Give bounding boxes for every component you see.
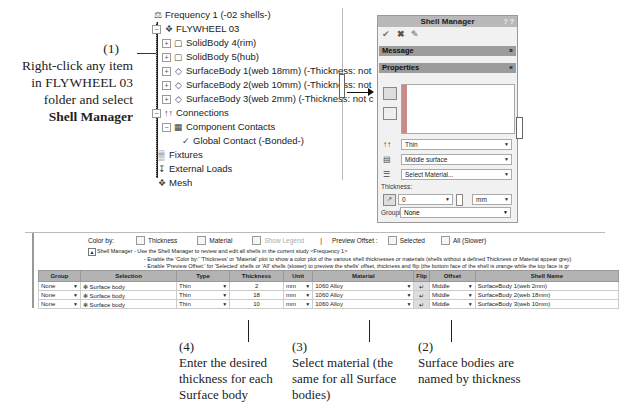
offset-cell[interactable]: Middle▼	[430, 282, 476, 291]
arrow-head-icon	[368, 88, 374, 96]
selection-listbox[interactable]	[401, 84, 515, 134]
message-section-header[interactable]: Message »	[379, 46, 516, 56]
col-header-offset[interactable]: Offset	[430, 271, 476, 282]
material-dropdown[interactable]: Select Material...▼	[401, 169, 512, 180]
dropdown-arrow-icon: ▼	[222, 283, 227, 289]
spin-icon[interactable]	[456, 194, 463, 206]
offset-dropdown[interactable]: Middle surface▼	[401, 154, 512, 165]
group-cell[interactable]: None▼	[39, 282, 81, 291]
surface-body-icon: ◇	[173, 78, 184, 92]
collapse-icon[interactable]: −	[162, 123, 171, 132]
expand-icon[interactable]: +	[162, 53, 171, 62]
tree-item-solidbody-hub[interactable]: + ▢ SolidBody 5(hub)	[162, 50, 259, 64]
panel-resize-handle[interactable]	[516, 117, 523, 139]
col-header-material[interactable]: Material	[313, 271, 414, 282]
type-cell[interactable]: Thin▼	[177, 291, 230, 300]
tree-item-connections[interactable]: − ↑↑ Connections	[152, 106, 229, 120]
unit-cell[interactable]: mm▼	[283, 291, 312, 300]
cell-value: 1060 Alloy	[315, 292, 343, 298]
thickness-cell[interactable]: 2	[230, 282, 284, 291]
col-header-selection[interactable]: Selection	[80, 271, 176, 282]
col-header-shell-name[interactable]: Shell Name	[475, 271, 618, 282]
dropdown-arrow-icon: ▼	[468, 301, 473, 307]
type-cell[interactable]: Thin▼	[177, 282, 230, 291]
col-header-flip[interactable]: Flip	[414, 271, 430, 282]
flip-cell[interactable]: ↵	[414, 300, 430, 309]
offset-cell[interactable]: Middle▼	[430, 300, 476, 309]
separator: |	[320, 237, 322, 244]
panel-title: Shell Manager	[420, 17, 474, 26]
collapse-chevron-icon[interactable]: »	[509, 46, 513, 56]
unit-cell[interactable]: mm▼	[283, 282, 312, 291]
tree-item-part[interactable]: − ❖ FLYWHEEL 03	[152, 22, 239, 36]
tree-resize-handle[interactable]	[339, 74, 345, 98]
section-label: Properties	[382, 63, 419, 72]
tree-item-label: Connections	[176, 106, 229, 120]
table-header-row: Group Selection Type Thickness Unit Mate…	[39, 271, 619, 282]
selection-cell[interactable]: ✻ Surface body	[80, 282, 176, 291]
solid-body-icon: ▢	[173, 36, 184, 50]
collapse-icon[interactable]: −	[152, 109, 161, 118]
surface-filter-icon[interactable]	[383, 107, 397, 120]
cell-value: Thin	[179, 292, 191, 298]
tree-item-external-loads[interactable]: ↧ External Loads	[156, 162, 232, 176]
dropdown-arrow-icon: ▼	[305, 292, 310, 298]
pushpin-icon[interactable]: ✎	[411, 29, 419, 39]
tree-item-mesh[interactable]: ❖ Mesh	[156, 176, 192, 190]
shell-type-dropdown[interactable]: Thin▼	[401, 139, 512, 150]
tree-item-global-contact[interactable]: ✓ Global Contact (-Bonded-)	[180, 134, 304, 148]
col-header-group[interactable]: Group	[39, 271, 81, 282]
selection-cell[interactable]: ✻ Surface body	[80, 291, 176, 300]
group-cell[interactable]: None▼	[39, 300, 81, 309]
flip-cell[interactable]: ↵	[414, 291, 430, 300]
dropdown-arrow-icon: ▼	[305, 301, 310, 307]
flip-cell[interactable]: ↵	[414, 282, 430, 291]
shell-name-cell[interactable]: SurfaceBody 2(web 18mm)	[475, 291, 618, 300]
tree-item-solidbody-rim[interactable]: + ▢ SolidBody 4(rim)	[162, 36, 256, 50]
expand-icon[interactable]: +	[162, 81, 171, 90]
offset-cell[interactable]: Middle▼	[430, 291, 476, 300]
selection-cell[interactable]: ✻ Surface body	[80, 300, 176, 309]
shell-name-cell[interactable]: SurfaceBody 3(web 10mm)	[475, 300, 618, 309]
material-checkbox[interactable]	[197, 236, 206, 245]
expand-icon[interactable]: +	[162, 95, 171, 104]
cell-value: SurfaceBody 1(web 2mm)	[478, 283, 547, 289]
collapse-chevron-icon[interactable]: «	[509, 63, 513, 73]
callout-4-line1: Enter the desired	[179, 355, 273, 371]
cancel-x-icon[interactable]: ✖	[397, 29, 405, 39]
tree-item-study[interactable]: ⚖ Frequency 1 (-02 shells-)	[152, 8, 271, 22]
col-header-thickness[interactable]: Thickness	[230, 271, 284, 282]
tree-item-fixtures[interactable]: ▒ Fixtures	[156, 148, 203, 162]
thickness-input[interactable]: 0▼	[398, 194, 453, 205]
thickness-cell[interactable]: 10	[230, 300, 284, 309]
ok-check-icon[interactable]: ✔	[382, 29, 390, 39]
thickness-checkbox[interactable]	[136, 236, 145, 245]
shell-name-cell[interactable]: SurfaceBody 1(web 2mm)	[475, 282, 618, 291]
selected-checkbox[interactable]	[388, 236, 397, 245]
properties-section-header[interactable]: Properties «	[379, 63, 516, 73]
collapse-info-icon[interactable]: ▲	[88, 248, 96, 256]
unit-cell[interactable]: mm▼	[283, 300, 312, 309]
dropdown-arrow-icon: ▼	[503, 208, 508, 217]
material-cell[interactable]: 1060 Alloy▼	[313, 291, 414, 300]
part-icon: ❖	[163, 22, 174, 36]
grouping-dropdown[interactable]: None▼	[400, 207, 511, 218]
expand-icon[interactable]: +	[162, 67, 171, 76]
col-header-type[interactable]: Type	[177, 271, 230, 282]
expand-icon[interactable]: +	[162, 39, 171, 48]
type-cell[interactable]: Thin▼	[177, 300, 230, 309]
selection-icon[interactable]	[383, 87, 397, 100]
material-cell[interactable]: 1060 Alloy▼	[313, 282, 414, 291]
tree-item-component-contacts[interactable]: − ▦ Component Contacts	[162, 120, 275, 134]
all-slower-checkbox[interactable]	[441, 236, 450, 245]
info-line-2: - Enable the 'Color by:' 'Thickness' or …	[144, 256, 571, 262]
unit-dropdown[interactable]: mm▼	[472, 194, 512, 205]
help-icon[interactable]: ? ?	[504, 16, 515, 27]
col-header-unit[interactable]: Unit	[283, 271, 312, 282]
cell-value: mm	[286, 292, 296, 298]
group-cell[interactable]: None▼	[39, 291, 81, 300]
thickness-cell[interactable]: 18	[230, 291, 284, 300]
collapse-icon[interactable]: −	[152, 25, 161, 34]
material-cell[interactable]: 1060 Alloy▼	[313, 300, 414, 309]
callout-2: (2) Surface bodies are named by thicknes…	[418, 339, 521, 387]
